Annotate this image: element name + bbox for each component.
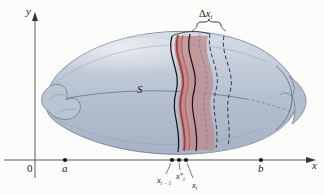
solid-label: S (137, 84, 143, 95)
x-axis-label: x (312, 160, 317, 171)
volume-cross-section-figure: y x 0 a b S Δxi xi − 1 x*i xi (0, 0, 324, 195)
x-subscript: i (183, 176, 184, 182)
leader-xi-star (179, 163, 180, 170)
solid-body (40, 30, 306, 170)
delta-subscript: i (210, 13, 212, 20)
leader-xi-minus-1 (166, 163, 171, 174)
delta-symbol: Δ (199, 8, 206, 19)
point-b-label: b (258, 163, 264, 174)
tick-dot-xi-minus-1 (170, 158, 174, 162)
x-i-star-label: x*i (176, 172, 185, 181)
leader-xi (187, 163, 193, 178)
x-i-label: xi (192, 181, 197, 190)
origin-label: 0 (27, 163, 33, 174)
x-subscript: i − 1 (161, 180, 171, 186)
tick-dot-xi-star (177, 158, 181, 162)
y-axis-arrow (32, 12, 38, 21)
y-axis-label: y (26, 6, 31, 17)
point-a-label: a (62, 163, 68, 174)
x-i-minus-1-label: xi − 1 (157, 176, 171, 185)
delta-x-brace (192, 19, 226, 31)
delta-x-label: Δxi (199, 9, 212, 20)
figure-canvas (0, 0, 324, 195)
tick-dot-xi (184, 158, 188, 162)
